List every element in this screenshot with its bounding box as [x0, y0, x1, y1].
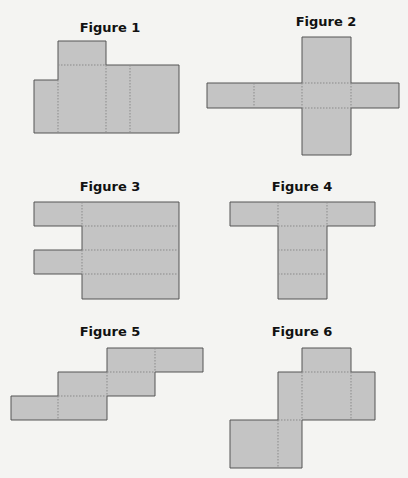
figure-3-net: [34, 202, 179, 299]
figure-5-net: [11, 348, 203, 420]
figure-2-net: [207, 37, 399, 155]
figure-6-net: [230, 348, 375, 468]
figure-4-net: [230, 202, 375, 299]
figure-1-net: [34, 41, 179, 133]
nets-diagram: [0, 0, 408, 478]
